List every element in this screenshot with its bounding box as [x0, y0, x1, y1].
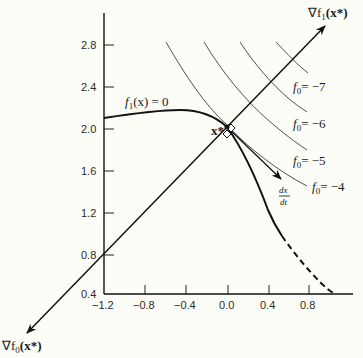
- x-tick-label: 0.0: [219, 299, 234, 311]
- direction-arrow: [227, 127, 281, 179]
- constraint-label: f1(x) = 0: [125, 94, 169, 111]
- direction-label-num: dx: [279, 185, 288, 195]
- contour-label-minus-5: f0= −5: [293, 153, 326, 170]
- optimum-label: x*: [211, 123, 224, 138]
- constraint-curve-solid: [104, 110, 282, 236]
- contour-label-minus-7: f0= −7: [293, 79, 326, 96]
- y-ticks: [104, 45, 114, 255]
- gradient-f1-arrow: [227, 26, 325, 127]
- gradient-f1-label: ∇f1(x*): [307, 5, 348, 22]
- x-tick-label: −1.2: [92, 299, 114, 311]
- optimum-point: [225, 125, 230, 130]
- y-tick-label: 2.4: [81, 81, 96, 93]
- x-tick-label: −0.4: [174, 299, 196, 311]
- direction-label-den: dt: [280, 197, 288, 207]
- figure-canvas: 2.8 2.4 2.0 1.6 1.2 0.8 0.4 −1.2 −0.8 −0…: [0, 0, 363, 358]
- gradient-f0-label: ∇f0(x*): [1, 338, 42, 355]
- y-tick-label: 2.8: [81, 39, 96, 51]
- x-tick-label: −0.8: [133, 299, 155, 311]
- gradient-f0-arrow: [27, 127, 227, 333]
- contour-label-minus-6: f0= −6: [293, 116, 326, 133]
- diagram-svg: 2.8 2.4 2.0 1.6 1.2 0.8 0.4 −1.2 −0.8 −0…: [0, 0, 363, 358]
- contour-f0-minus-6: [240, 42, 307, 112]
- y-tick-label: 1.6: [81, 165, 96, 177]
- y-tick-label: 0.8: [81, 249, 96, 261]
- contour-f0-minus-4: [166, 42, 307, 186]
- x-tick-label: 0.4: [260, 299, 275, 311]
- x-ticks: [145, 285, 309, 294]
- y-tick-label: 1.2: [81, 207, 96, 219]
- y-tick-label: 2.0: [81, 123, 96, 135]
- x-tick-label: 0.8: [300, 299, 315, 311]
- contour-f0-minus-7: [276, 42, 308, 73]
- contour-label-minus-4: f0= −4: [312, 179, 345, 196]
